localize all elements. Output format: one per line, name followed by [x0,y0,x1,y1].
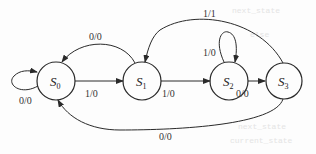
transition-s1-s0: 0/0 [62,31,135,63]
state-diagram: S0 S1 S2 S3 0/0 1/0 0/0 [0,0,316,154]
svg-text:1/1: 1/1 [203,8,216,19]
svg-text:0/0: 0/0 [89,31,102,42]
transition-s2-s3: 0/0 [236,81,265,99]
transition-s1-s2: 1/0 [161,81,210,99]
state-s0: S0 [37,62,75,100]
diagram-canvas: next_state else next_state current_state… [0,0,316,154]
svg-text:S3: S3 [278,74,289,91]
svg-text:1/0: 1/0 [162,88,175,99]
svg-text:1/0: 1/0 [203,47,216,58]
transition-s2-s2: 1/0 [203,32,236,62]
state-s1: S1 [123,62,161,100]
svg-text:0/0: 0/0 [236,88,249,99]
svg-text:S1: S1 [136,74,147,91]
transition-s0-s0: 0/0 [12,71,38,106]
transition-s0-s1: 1/0 [75,81,123,99]
svg-text:S2: S2 [223,74,234,91]
svg-text:0/0: 0/0 [159,131,172,142]
svg-text:0/0: 0/0 [19,95,32,106]
transition-s3-s0: 0/0 [58,99,283,142]
svg-text:1/0: 1/0 [85,88,98,99]
svg-text:S0: S0 [50,74,61,91]
state-s3: S3 [266,63,302,99]
